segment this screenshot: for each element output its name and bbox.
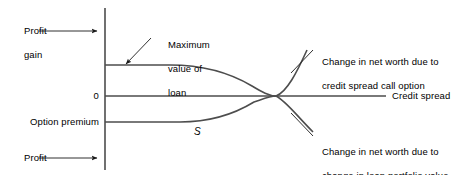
loan-portfolio-annotation: Change in net worth due to change in loa… <box>311 134 449 175</box>
call-option-annotation-leader <box>291 50 313 73</box>
zero-axis-label: 0 <box>57 90 99 102</box>
loan-portfolio-line-1: Change in net worth due to <box>322 146 439 157</box>
call-option-line-1: Change in net worth due to <box>322 56 439 67</box>
maximum-value-of-loan-label: Maximum value of loan <box>157 27 210 111</box>
maximum-value-line-2: value of <box>168 63 202 74</box>
loan-portfolio-annotation-leader <box>291 113 313 136</box>
profit-gain-line-2: gain <box>24 49 42 60</box>
maximum-value-of-loan-leader <box>126 38 151 64</box>
call-option-line-2: credit spread call option <box>322 80 425 91</box>
profit-gain-line-1: Profit <box>24 25 47 36</box>
credit-spread-option-payoff-diagram: Profit gain Profit loss 0 Option premium… <box>0 0 460 175</box>
maximum-value-line-1: Maximum <box>168 39 210 50</box>
call-option-annotation: Change in net worth due to credit spread… <box>311 44 439 104</box>
loan-portfolio-line-2: change in loan portfolio value <box>322 170 449 175</box>
profit-loss-label: Profit loss <box>13 140 47 175</box>
profit-gain-label: Profit gain <box>13 13 47 73</box>
curve-marker-s-label: S <box>194 126 201 138</box>
profit-loss-line-1: Profit <box>24 152 47 163</box>
option-premium-label: Option premium <box>6 116 99 128</box>
maximum-value-line-3: loan <box>168 87 186 98</box>
